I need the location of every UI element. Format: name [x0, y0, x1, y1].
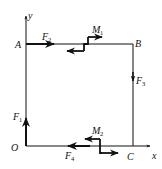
svg-text:1: 1 [100, 29, 103, 36]
point-c-label: C [127, 151, 134, 162]
point-b-label: B [135, 38, 141, 49]
m1-label: M 1 [91, 24, 103, 36]
x-axis-label: x [151, 150, 157, 161]
y-axis-label: y [27, 10, 33, 21]
svg-text:2: 2 [100, 130, 103, 137]
f1-label: F 1 [12, 111, 22, 123]
origin-label: O [11, 142, 18, 153]
svg-text:3: 3 [142, 80, 145, 87]
force-diagram: y x O A B C F 1 F 2 F 3 F 4 M 1 M 2 [0, 0, 162, 169]
f4-label: F 4 [64, 150, 75, 162]
f2-label: F 2 [41, 31, 51, 43]
svg-text:2: 2 [48, 36, 51, 43]
svg-text:4: 4 [71, 155, 75, 162]
m2-label: M 2 [91, 125, 103, 137]
frame-AB-BC [26, 44, 133, 146]
svg-text:1: 1 [19, 116, 22, 123]
f3-label: F 3 [135, 75, 145, 87]
point-a-label: A [14, 39, 22, 50]
